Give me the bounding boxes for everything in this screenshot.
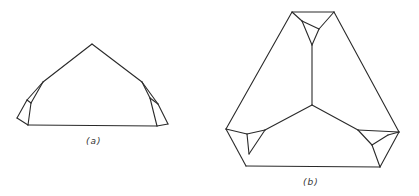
edge-line [249,130,265,154]
edge-line [27,100,31,103]
edge-line [265,105,312,130]
edge-line [334,12,399,132]
figure-b-polyhedron [226,12,399,167]
edge-line [17,118,28,125]
edge-line [31,82,43,103]
edge-line [226,12,292,129]
edge-line [142,82,158,104]
edge-line [312,29,319,45]
figure-b-label: (b) [303,177,319,187]
edge-line [158,104,168,124]
edge-line [157,124,168,126]
edge-line [17,100,27,118]
edge-line [292,12,302,21]
edge-line [247,134,249,154]
edge-line [28,103,31,125]
edge-line [92,44,142,82]
edge-line [226,129,247,134]
edge-line [28,125,157,126]
edge-line [43,44,92,82]
figure-a-polyhedron [17,44,168,126]
edge-line [226,129,246,166]
edge-line [358,130,399,132]
edge-line [358,130,372,145]
edge-line [246,166,380,167]
figure-a-label: (a) [86,136,102,146]
edge-line [27,82,43,100]
edge-line [319,12,334,29]
edge-line [372,145,380,167]
edge-line [372,135,388,145]
edge-line [380,132,399,167]
crystal-diagram [0,0,419,196]
edge-line [312,105,358,130]
